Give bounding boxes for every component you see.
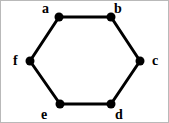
hexagon-diagram: [1, 1, 169, 123]
hexagon-figure: a b c d e f: [0, 0, 169, 123]
hexagon-edge-fa: [30, 17, 59, 61]
hexagon-edge-cd: [111, 61, 140, 104]
hexagon-vertices: [26, 13, 145, 109]
vertex-dot-f: [26, 57, 35, 66]
vertex-label-f: f: [13, 54, 18, 68]
vertex-dot-a: [55, 13, 64, 22]
vertex-dot-e: [56, 100, 65, 109]
vertex-label-c: c: [152, 54, 158, 68]
hexagon-edge-ef: [30, 61, 60, 104]
vertex-label-b: b: [114, 2, 122, 16]
vertex-dot-c: [136, 57, 145, 66]
vertex-label-d: d: [115, 108, 123, 122]
hexagon-edge-bc: [111, 17, 140, 61]
hexagon-edges: [30, 17, 140, 104]
vertex-label-a: a: [42, 2, 49, 16]
vertex-label-e: e: [41, 108, 47, 122]
